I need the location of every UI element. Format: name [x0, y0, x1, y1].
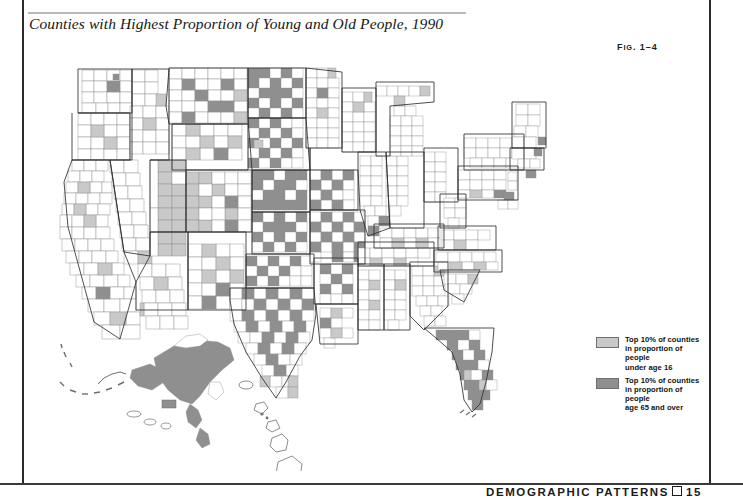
figure-number-smallcaps: IG [623, 43, 633, 52]
page-marker-icon [672, 486, 682, 496]
legend-label-old: Top 10% of counties in proportion of peo… [625, 376, 708, 413]
figure-page: Counties with Highest Proportion of Youn… [0, 0, 743, 502]
legend-label-young: Top 10% of counties in proportion of peo… [625, 335, 708, 372]
figure-number: FIG. 1–4 [617, 42, 658, 52]
alaska-islands [127, 411, 171, 429]
map-legend: Top 10% of counties in proportion of peo… [596, 335, 708, 417]
legend-swatch-old [596, 378, 619, 389]
legend-item-young: Top 10% of counties in proportion of peo… [596, 335, 708, 372]
legend-item-old: Top 10% of counties in proportion of peo… [596, 376, 708, 413]
legend-swatch-young [596, 337, 619, 348]
figure-title: Counties with Highest Proportion of Youn… [29, 15, 443, 33]
footer-section-title: DEMOGRAPHIC PATTERNS [486, 486, 669, 498]
footer-page-number: 15 [686, 486, 702, 498]
page-rule-right [709, 0, 711, 484]
page-rule-bottom [0, 483, 743, 485]
page-footer: DEMOGRAPHIC PATTERNS15 [0, 486, 702, 498]
alaska-inset [60, 334, 234, 448]
figure-number-suffix: . 1–4 [633, 42, 658, 52]
title-rule [28, 12, 466, 14]
aleutian-islands [60, 344, 124, 394]
